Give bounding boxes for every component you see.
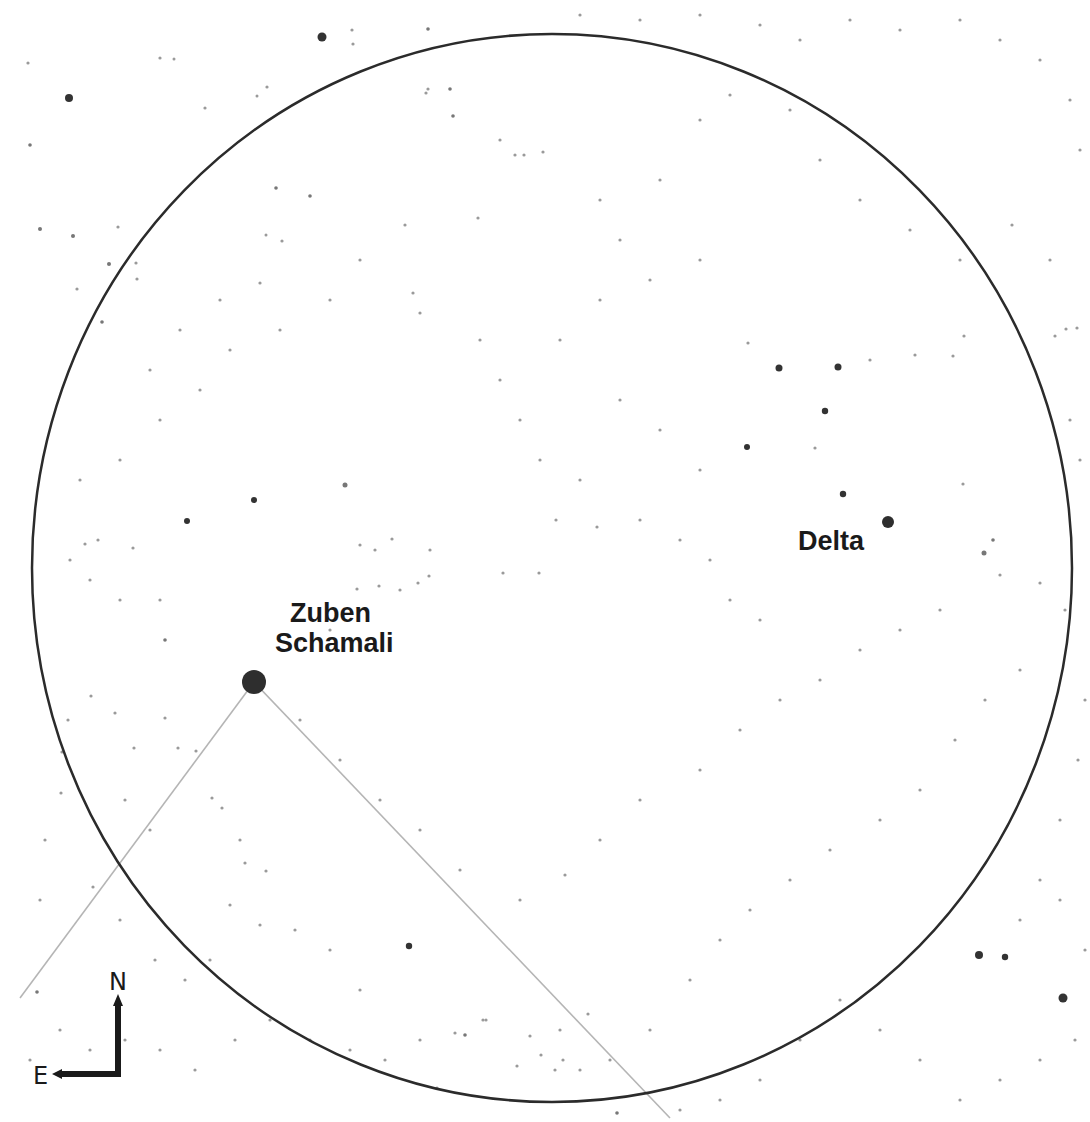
star: [898, 28, 901, 31]
named-star-zuben-schamali: [242, 670, 266, 694]
star: [818, 158, 821, 161]
star: [758, 23, 761, 26]
star: [210, 796, 213, 799]
star: [975, 951, 983, 959]
star: [203, 106, 206, 109]
star: [220, 806, 223, 809]
star: [522, 153, 525, 156]
star: [776, 365, 783, 372]
star: [118, 598, 121, 601]
star: [424, 91, 427, 94]
star: [578, 478, 581, 481]
star: [541, 150, 544, 153]
star: [537, 571, 540, 574]
star: [135, 277, 138, 280]
star: [698, 258, 701, 261]
star: [962, 334, 965, 337]
star-chart: [0, 0, 1090, 1122]
star: [88, 578, 91, 581]
star: [148, 368, 151, 371]
star: [28, 143, 32, 147]
star: [118, 458, 121, 461]
star: [274, 186, 278, 190]
star: [638, 798, 641, 801]
star: [478, 338, 481, 341]
star: [298, 718, 301, 721]
star: [648, 1028, 651, 1031]
star: [1053, 334, 1056, 337]
star: [718, 938, 721, 941]
star: [218, 298, 221, 301]
star: [96, 538, 99, 541]
star: [618, 398, 621, 401]
star: [89, 694, 92, 697]
star: [1038, 581, 1041, 584]
star: [898, 628, 901, 631]
star: [78, 478, 81, 481]
star: [563, 873, 566, 876]
star: [658, 428, 661, 431]
label-delta: Delta: [798, 526, 864, 556]
star: [595, 525, 598, 528]
star: [501, 571, 504, 574]
star: [158, 598, 161, 601]
star: [358, 988, 361, 991]
star: [158, 1048, 161, 1051]
star: [738, 728, 741, 731]
star: [153, 958, 156, 961]
north-arrow-shaft: [115, 1003, 121, 1077]
star: [553, 1068, 556, 1071]
star: [918, 1058, 921, 1061]
star: [558, 1028, 561, 1031]
star: [958, 258, 961, 261]
star: [378, 798, 381, 801]
star: [113, 711, 116, 714]
star: [528, 1034, 531, 1037]
star: [183, 978, 186, 981]
star: [498, 138, 501, 141]
star: [43, 838, 46, 841]
star: [778, 698, 781, 701]
star: [908, 228, 911, 231]
star: [1018, 918, 1021, 921]
star: [194, 749, 197, 752]
star: [123, 798, 126, 801]
star: [1076, 758, 1079, 761]
star: [208, 958, 211, 961]
star: [598, 298, 601, 301]
star: [758, 1078, 761, 1081]
star: [481, 1018, 484, 1021]
star: [718, 1098, 721, 1101]
star: [68, 558, 71, 561]
star: [1083, 698, 1086, 701]
star: [158, 418, 161, 421]
compass-north-label: N: [109, 968, 127, 996]
star: [428, 548, 431, 551]
star: [448, 87, 452, 91]
star: [88, 1048, 91, 1051]
star: [498, 378, 501, 381]
star: [26, 61, 29, 64]
star: [377, 584, 380, 587]
star: [35, 990, 39, 994]
star: [463, 1033, 467, 1037]
star: [427, 574, 430, 577]
star: [265, 85, 268, 88]
star: [251, 497, 257, 503]
star: [838, 998, 841, 1001]
star: [1068, 418, 1071, 421]
star: [71, 234, 75, 238]
star: [228, 903, 231, 906]
star: [426, 27, 430, 31]
star: [134, 261, 137, 264]
star: [59, 791, 62, 794]
star: [116, 225, 119, 228]
star: [728, 598, 731, 601]
star: [858, 198, 861, 201]
star: [1038, 878, 1041, 881]
star: [1078, 148, 1081, 151]
star: [758, 618, 761, 621]
star: [233, 1038, 236, 1041]
star: [788, 108, 791, 111]
star: [65, 94, 73, 102]
